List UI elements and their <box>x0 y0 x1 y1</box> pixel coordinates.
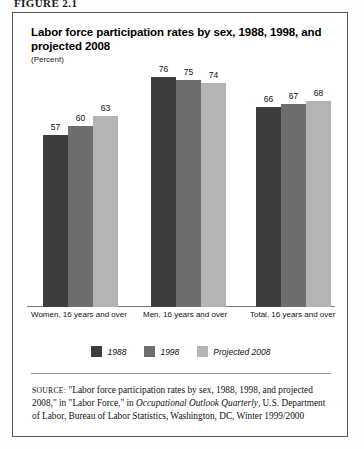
bar-value-label: 74 <box>201 70 226 80</box>
bar-value-label: 68 <box>306 88 331 98</box>
source-prefix: SOURCE: <box>32 386 66 395</box>
chart-title: Labor force participation rates by sex, … <box>31 26 331 53</box>
source-publication-title: Occupational Outlook Quarterly <box>136 398 258 408</box>
legend-label: 1998 <box>160 347 179 357</box>
legend-label: Projected 2008 <box>213 347 270 357</box>
source-note: SOURCE: "Labor force participation rates… <box>32 384 332 422</box>
category-label: Total, 16 years and over <box>250 310 325 319</box>
figure-page: FIGURE 2.1 Labor force participation rat… <box>0 0 364 449</box>
bar-set: 767574 <box>151 65 226 307</box>
bar[interactable]: 74 <box>201 83 226 307</box>
bar[interactable]: 63 <box>93 116 118 307</box>
figure-frame: Labor force participation rates by sex, … <box>12 12 348 437</box>
chart-legend: 19881998Projected 2008 <box>31 346 331 357</box>
bar-value-label: 63 <box>93 103 118 113</box>
bar[interactable]: 68 <box>306 101 331 307</box>
legend-item[interactable]: Projected 2008 <box>197 346 270 357</box>
legend-swatch <box>197 346 208 357</box>
bar-value-label: 66 <box>256 94 281 104</box>
legend-item[interactable]: 1998 <box>144 346 179 357</box>
legend-swatch <box>144 346 155 357</box>
category-label: Women, 16 years and over <box>31 310 106 319</box>
bar-value-label: 60 <box>68 113 93 123</box>
category-label: Men, 16 years and over <box>143 310 218 319</box>
bar[interactable]: 57 <box>43 135 68 307</box>
source-divider <box>31 373 331 374</box>
bar-value-label: 67 <box>281 91 306 101</box>
bar-value-label: 75 <box>176 67 201 77</box>
bar[interactable]: 67 <box>281 104 306 307</box>
bar[interactable]: 66 <box>256 107 281 307</box>
bar-value-label: 76 <box>151 64 176 74</box>
bar[interactable]: 75 <box>176 80 201 307</box>
figure-number-label: FIGURE 2.1 <box>14 0 77 9</box>
legend-swatch <box>91 346 102 357</box>
bar[interactable]: 76 <box>151 77 176 307</box>
chart-subtitle: (Percent) <box>31 55 64 64</box>
bar-value-label: 57 <box>43 122 68 132</box>
legend-label: 1988 <box>107 347 126 357</box>
bar-set: 666768 <box>256 65 331 307</box>
bar-set: 576063 <box>43 65 118 307</box>
bar[interactable]: 60 <box>68 126 93 308</box>
legend-item[interactable]: 1988 <box>91 346 126 357</box>
